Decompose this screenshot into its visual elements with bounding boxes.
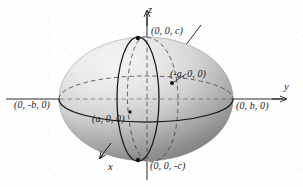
point-label-back: (-a, 0, 0) — [170, 69, 206, 79]
vertex-front — [128, 110, 131, 113]
ellipsoid-figure: z y x (0, 0, c) (0, 0, -c) (0, -b, 0) (0… — [0, 0, 303, 187]
y-axis-label: y — [284, 82, 289, 93]
vertex-bottom — [136, 158, 140, 162]
vertex-top — [136, 36, 140, 40]
point-label-top: (0, 0, c) — [151, 26, 183, 36]
point-label-bottom: (0, 0, -c) — [150, 161, 185, 171]
vertex-back — [170, 81, 174, 85]
point-label-front: (a, 0, 0) — [92, 114, 125, 124]
point-label-left: (0, -b, 0) — [14, 100, 50, 110]
point-label-right: (0, b, 0) — [236, 101, 269, 111]
z-axis-label: z — [148, 5, 152, 16]
x-axis-label: x — [108, 162, 113, 173]
